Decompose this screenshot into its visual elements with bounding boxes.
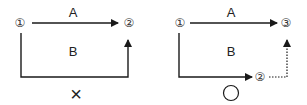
diagram-canvas: ① ② A B × ① ③ A B ② <box>0 0 307 105</box>
diagram-correct: ① ③ A B ② <box>175 5 292 101</box>
cross-mark: × <box>70 83 82 105</box>
route-a-label: A <box>69 5 78 20</box>
route-b-label: B <box>227 44 236 59</box>
end-node-label: ② <box>124 16 135 30</box>
start-node-label: ① <box>15 16 26 30</box>
diagram-incorrect: ① ② A B × <box>15 5 135 105</box>
route-b-label: B <box>69 44 78 59</box>
mid-node-label: ② <box>255 70 266 84</box>
dotted-connector-arrow <box>269 40 287 77</box>
circle-mark <box>224 86 239 101</box>
start-node-label: ① <box>175 16 186 30</box>
route-b-arrow <box>179 33 252 77</box>
route-a-label: A <box>227 5 236 20</box>
end-node-label: ③ <box>281 16 292 30</box>
